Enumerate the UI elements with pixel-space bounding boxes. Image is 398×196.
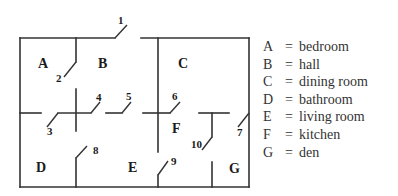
- legend-key: A: [263, 38, 285, 56]
- door-label-5: 5: [126, 90, 132, 102]
- legend-room: living room: [299, 108, 365, 126]
- legend-equals: =: [285, 144, 299, 162]
- legend-equals: =: [285, 108, 299, 126]
- room-label-b: B: [98, 56, 107, 71]
- legend-room: den: [299, 144, 319, 162]
- room-label-g: G: [229, 161, 240, 176]
- legend-row-f: F = kitchen: [263, 126, 368, 144]
- room-label-e: E: [128, 160, 137, 175]
- door-6: [170, 102, 180, 113]
- legend-row-c: C = dining room: [263, 73, 368, 91]
- legend-key: B: [263, 56, 285, 74]
- legend-row-e: E = living room: [263, 108, 368, 126]
- door-label-2: 2: [56, 72, 62, 84]
- door-label-4: 4: [96, 91, 102, 103]
- door-7: [238, 113, 249, 127]
- door-label-9: 9: [171, 155, 177, 167]
- door-label-6: 6: [172, 90, 178, 102]
- door-label-3: 3: [47, 125, 53, 137]
- legend-room: dining room: [299, 73, 368, 91]
- legend-key: F: [263, 126, 285, 144]
- room-label-f: F: [172, 121, 181, 136]
- room-label-c: C: [178, 56, 188, 71]
- door-9: [158, 161, 168, 175]
- legend-equals: =: [285, 56, 299, 74]
- legend-row-g: G = den: [263, 144, 368, 162]
- door-2: [64, 62, 76, 77]
- floor-plan: A B C D E F G 1 2 3 4 5 6 7 8 9 10: [0, 0, 260, 196]
- legend-equals: =: [285, 73, 299, 91]
- room-label-a: A: [38, 56, 49, 71]
- legend-room: bathroom: [299, 91, 353, 109]
- room-legend: A = bedroom B = hall C = dining room D =…: [263, 38, 368, 161]
- legend-row-a: A = bedroom: [263, 38, 368, 56]
- door-label-10: 10: [191, 138, 203, 150]
- legend-room: bedroom: [299, 38, 349, 56]
- legend-key: G: [263, 144, 285, 162]
- legend-equals: =: [285, 38, 299, 56]
- door-label-8: 8: [93, 144, 99, 156]
- doors: [47, 25, 249, 175]
- door-5: [122, 102, 131, 113]
- legend-room: hall: [299, 56, 320, 74]
- door-label-7: 7: [237, 126, 243, 138]
- door-8: [76, 146, 87, 158]
- legend-key: E: [263, 108, 285, 126]
- legend-room: kitchen: [299, 126, 340, 144]
- door-4: [91, 102, 100, 113]
- door-1: [115, 25, 127, 38]
- room-label-d: D: [36, 160, 46, 175]
- legend-key: C: [263, 73, 285, 91]
- door-label-1: 1: [118, 14, 124, 26]
- legend-key: D: [263, 91, 285, 109]
- legend-row-d: D = bathroom: [263, 91, 368, 109]
- legend-row-b: B = hall: [263, 56, 368, 74]
- legend-equals: =: [285, 91, 299, 109]
- legend-equals: =: [285, 126, 299, 144]
- door-10: [202, 137, 212, 150]
